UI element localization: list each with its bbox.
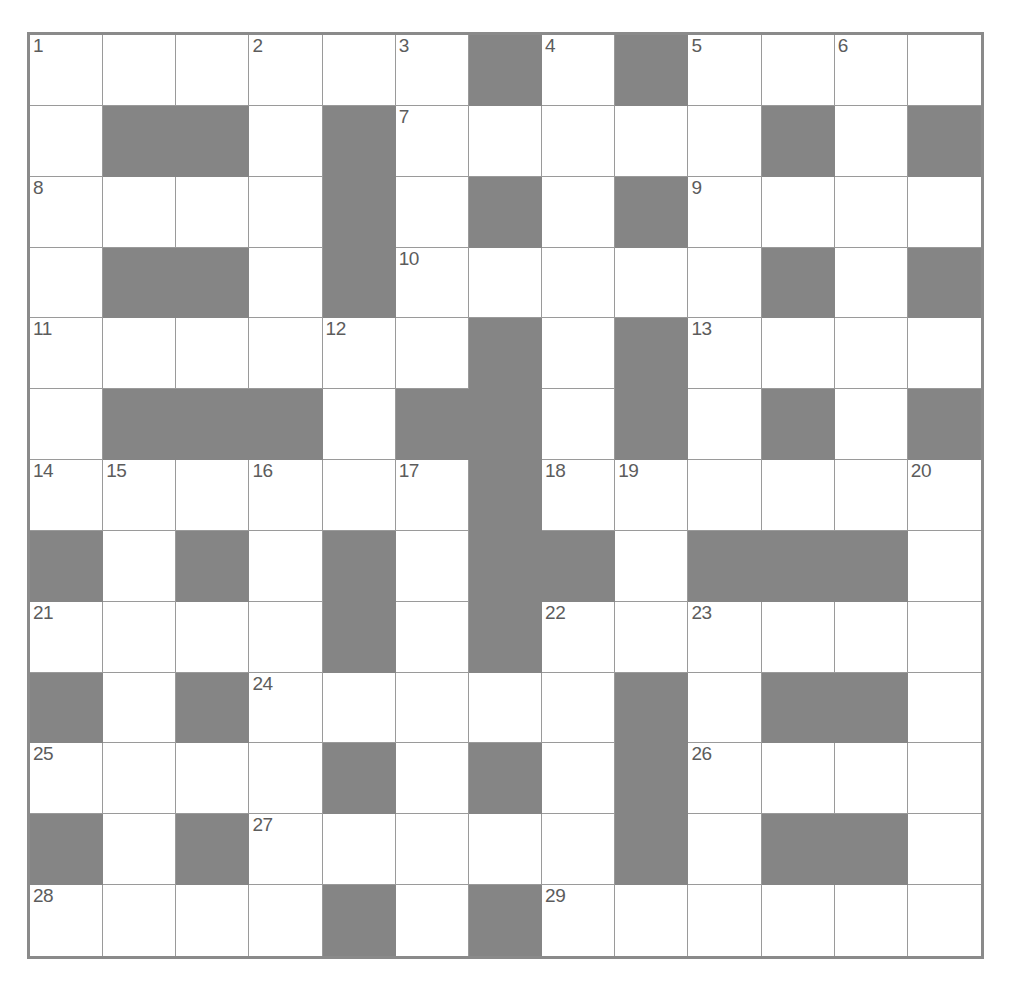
letter-square[interactable]: 16 — [249, 460, 322, 531]
letter-square[interactable] — [323, 389, 396, 460]
letter-square[interactable] — [762, 35, 835, 106]
letter-square[interactable] — [542, 743, 615, 814]
letter-square[interactable] — [396, 318, 469, 389]
letter-square[interactable]: 8 — [30, 177, 103, 248]
letter-square[interactable] — [396, 602, 469, 673]
letter-square[interactable] — [103, 531, 176, 602]
letter-square[interactable]: 25 — [30, 743, 103, 814]
letter-square[interactable] — [762, 460, 835, 531]
letter-square[interactable]: 11 — [30, 318, 103, 389]
letter-square[interactable] — [396, 743, 469, 814]
letter-square[interactable] — [469, 106, 542, 177]
letter-square[interactable] — [396, 531, 469, 602]
letter-square[interactable] — [835, 602, 908, 673]
letter-square[interactable] — [249, 177, 322, 248]
letter-square[interactable] — [469, 673, 542, 744]
letter-square[interactable] — [762, 177, 835, 248]
letter-square[interactable] — [835, 460, 908, 531]
letter-square[interactable]: 3 — [396, 35, 469, 106]
letter-square[interactable] — [542, 389, 615, 460]
letter-square[interactable] — [615, 602, 688, 673]
letter-square[interactable] — [103, 814, 176, 885]
letter-square[interactable] — [835, 248, 908, 319]
letter-square[interactable]: 19 — [615, 460, 688, 531]
letter-square[interactable] — [249, 885, 322, 956]
letter-square[interactable] — [323, 673, 396, 744]
letter-square[interactable] — [542, 248, 615, 319]
letter-square[interactable]: 5 — [688, 35, 761, 106]
letter-square[interactable] — [688, 389, 761, 460]
letter-square[interactable] — [542, 814, 615, 885]
letter-square[interactable] — [688, 106, 761, 177]
letter-square[interactable] — [835, 106, 908, 177]
letter-square[interactable]: 28 — [30, 885, 103, 956]
letter-square[interactable] — [542, 673, 615, 744]
letter-square[interactable]: 2 — [249, 35, 322, 106]
letter-square[interactable] — [908, 318, 981, 389]
letter-square[interactable]: 22 — [542, 602, 615, 673]
letter-square[interactable]: 1 — [30, 35, 103, 106]
letter-square[interactable]: 24 — [249, 673, 322, 744]
letter-square[interactable] — [615, 531, 688, 602]
letter-square[interactable] — [835, 389, 908, 460]
letter-square[interactable] — [908, 814, 981, 885]
letter-square[interactable] — [323, 35, 396, 106]
letter-square[interactable] — [176, 460, 249, 531]
letter-square[interactable] — [908, 35, 981, 106]
letter-square[interactable] — [103, 885, 176, 956]
letter-square[interactable] — [103, 602, 176, 673]
letter-square[interactable] — [615, 106, 688, 177]
letter-square[interactable] — [762, 885, 835, 956]
letter-square[interactable] — [542, 177, 615, 248]
letter-square[interactable] — [908, 885, 981, 956]
letter-square[interactable]: 26 — [688, 743, 761, 814]
letter-square[interactable] — [103, 35, 176, 106]
letter-square[interactable] — [176, 885, 249, 956]
letter-square[interactable] — [103, 318, 176, 389]
letter-square[interactable] — [542, 318, 615, 389]
letter-square[interactable] — [249, 743, 322, 814]
letter-square[interactable] — [396, 885, 469, 956]
letter-square[interactable] — [835, 743, 908, 814]
letter-square[interactable] — [176, 602, 249, 673]
letter-square[interactable]: 6 — [835, 35, 908, 106]
letter-square[interactable]: 7 — [396, 106, 469, 177]
letter-square[interactable] — [249, 602, 322, 673]
letter-square[interactable] — [908, 531, 981, 602]
letter-square[interactable] — [323, 814, 396, 885]
letter-square[interactable]: 18 — [542, 460, 615, 531]
letter-square[interactable] — [30, 106, 103, 177]
letter-square[interactable]: 17 — [396, 460, 469, 531]
letter-square[interactable] — [835, 177, 908, 248]
letter-square[interactable] — [762, 602, 835, 673]
letter-square[interactable] — [688, 248, 761, 319]
letter-square[interactable] — [176, 177, 249, 248]
letter-square[interactable]: 4 — [542, 35, 615, 106]
letter-square[interactable] — [103, 673, 176, 744]
letter-square[interactable] — [396, 814, 469, 885]
letter-square[interactable] — [249, 106, 322, 177]
letter-square[interactable]: 9 — [688, 177, 761, 248]
letter-square[interactable] — [30, 389, 103, 460]
letter-square[interactable]: 12 — [323, 318, 396, 389]
letter-square[interactable]: 27 — [249, 814, 322, 885]
letter-square[interactable] — [323, 460, 396, 531]
letter-square[interactable] — [176, 743, 249, 814]
letter-square[interactable] — [396, 673, 469, 744]
letter-square[interactable] — [835, 885, 908, 956]
letter-square[interactable] — [908, 743, 981, 814]
letter-square[interactable] — [103, 177, 176, 248]
letter-square[interactable]: 14 — [30, 460, 103, 531]
letter-square[interactable]: 23 — [688, 602, 761, 673]
letter-square[interactable] — [688, 885, 761, 956]
letter-square[interactable] — [908, 177, 981, 248]
letter-square[interactable] — [469, 248, 542, 319]
letter-square[interactable] — [176, 35, 249, 106]
letter-square[interactable] — [908, 602, 981, 673]
letter-square[interactable] — [688, 814, 761, 885]
letter-square[interactable] — [615, 248, 688, 319]
letter-square[interactable] — [103, 743, 176, 814]
letter-square[interactable] — [30, 248, 103, 319]
letter-square[interactable] — [688, 460, 761, 531]
letter-square[interactable] — [469, 814, 542, 885]
